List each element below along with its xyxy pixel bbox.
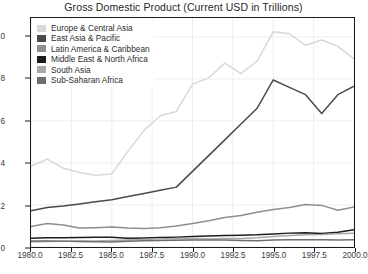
- y-tick-label: 2: [0, 201, 5, 210]
- x-tick-mark: [71, 248, 72, 252]
- x-tick-label: 1980.0: [17, 251, 42, 260]
- x-tick-mark: [355, 248, 356, 252]
- y-tick-label: 8: [0, 74, 5, 83]
- series-line: [31, 230, 354, 238]
- legend-label: Sub-Saharan Africa: [51, 76, 123, 84]
- legend-label: Middle East & North Africa: [51, 55, 148, 63]
- series-line: [31, 205, 354, 229]
- legend-item: South Asia: [37, 65, 150, 75]
- legend-swatch-icon: [37, 35, 46, 42]
- y-tick-label: 6: [0, 116, 5, 125]
- y-tick-mark: [25, 205, 30, 206]
- legend-swatch-icon: [37, 56, 46, 63]
- legend-swatch-icon: [37, 66, 46, 73]
- x-tick-mark: [193, 248, 194, 252]
- series-line: [31, 80, 354, 211]
- y-tick-label: 0: [0, 244, 5, 253]
- x-tick-mark: [152, 248, 153, 252]
- y-tick-label: 10: [0, 32, 5, 41]
- y-tick-mark: [25, 163, 30, 164]
- legend-item: Sub-Saharan Africa: [37, 75, 150, 85]
- legend-item: Europe & Central Asia: [37, 23, 150, 33]
- y-tick-mark: [25, 78, 30, 79]
- legend-label: South Asia: [51, 66, 91, 74]
- x-tick-label: 1985.0: [99, 251, 124, 260]
- legend: Europe & Central AsiaEast Asia & Pacific…: [34, 21, 154, 87]
- series-line: [31, 240, 354, 242]
- x-tick-label: 2000.0: [342, 251, 367, 260]
- legend-swatch-icon: [37, 25, 46, 32]
- legend-label: Europe & Central Asia: [51, 24, 133, 32]
- x-tick-label: 1987.5: [139, 251, 164, 260]
- x-tick-mark: [314, 248, 315, 252]
- legend-item: Latin America & Caribbean: [37, 44, 150, 54]
- plot-area: Europe & Central AsiaEast Asia & Pacific…: [30, 17, 355, 248]
- legend-swatch-icon: [37, 45, 46, 52]
- chart-title: Gross Domestic Product (Current USD in T…: [0, 1, 367, 13]
- x-tick-label: 1997.5: [302, 251, 327, 260]
- x-tick-mark: [111, 248, 112, 252]
- legend-item: Middle East & North Africa: [37, 54, 150, 64]
- x-tick-mark: [274, 248, 275, 252]
- x-tick-label: 1995.0: [261, 251, 286, 260]
- x-tick-mark: [30, 248, 31, 252]
- legend-label: Latin America & Caribbean: [51, 45, 150, 53]
- x-tick-label: 1982.5: [58, 251, 83, 260]
- y-tick-label: 4: [0, 159, 5, 168]
- legend-item: East Asia & Pacific: [37, 33, 150, 43]
- legend-swatch-icon: [37, 77, 46, 84]
- x-tick-mark: [233, 248, 234, 252]
- x-tick-label: 1992.5: [221, 251, 246, 260]
- legend-label: East Asia & Pacific: [51, 34, 120, 42]
- x-tick-label: 1990.0: [180, 251, 205, 260]
- y-tick-mark: [25, 36, 30, 37]
- y-tick-mark: [25, 120, 30, 121]
